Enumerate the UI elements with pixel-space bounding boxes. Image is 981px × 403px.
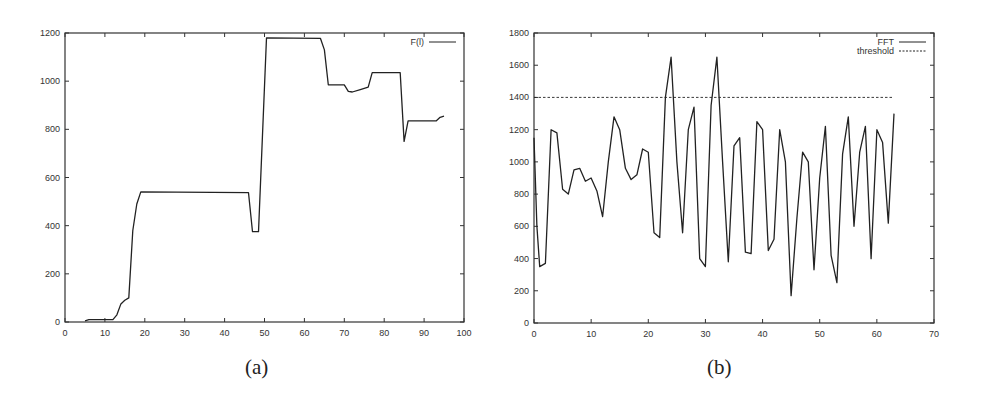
y-tick-label: 1000 [509,157,529,167]
caption-b: (b) [707,355,732,380]
plot-frame [534,33,934,323]
x-tick-label: 100 [456,328,471,338]
x-tick-label: 0 [531,329,536,339]
x-tick-label: 20 [643,329,653,339]
x-tick-label: 70 [339,328,349,338]
x-tick-label: 0 [62,328,67,338]
y-tick-label: 0 [55,317,60,327]
chart-b: 0102030405060700200400600800100012001400… [490,0,981,345]
x-tick-label: 70 [929,329,939,339]
caption-a: (a) [245,355,268,380]
y-tick-label: 200 [45,269,60,279]
x-tick-label: 50 [259,328,269,338]
y-tick-label: 600 [45,173,60,183]
y-tick-label: 400 [514,254,529,264]
y-tick-label: 400 [45,221,60,231]
y-tick-label: 1400 [509,92,529,102]
y-tick-label: 1800 [509,28,529,38]
y-tick-label: 800 [45,124,60,134]
x-tick-label: 60 [299,328,309,338]
y-tick-label: 0 [524,318,529,328]
x-tick-label: 90 [419,328,429,338]
y-tick-label: 1600 [509,60,529,70]
chart-a: 0102030405060708090100020040060080010001… [0,0,490,345]
x-tick-label: 60 [872,329,882,339]
x-tick-label: 40 [758,329,768,339]
series-f-l--line [85,38,444,321]
y-tick-label: 800 [514,189,529,199]
x-tick-label: 30 [180,328,190,338]
x-tick-label: 20 [140,328,150,338]
x-tick-label: 10 [100,328,110,338]
x-tick-label: 10 [586,329,596,339]
chart-b-plot: 0102030405060700200400600800100012001400… [490,0,981,345]
x-tick-label: 80 [379,328,389,338]
series-fft-line [534,57,894,295]
chart-a-plot: 0102030405060708090100020040060080010001… [0,0,490,345]
y-tick-label: 200 [514,286,529,296]
x-tick-label: 40 [220,328,230,338]
y-tick-label: 1200 [509,125,529,135]
y-tick-label: 1200 [40,28,60,38]
y-tick-label: 1000 [40,76,60,86]
legend-label: threshold [857,46,894,56]
x-tick-label: 30 [700,329,710,339]
legend-label: F(l) [411,37,425,47]
x-tick-label: 50 [815,329,825,339]
y-tick-label: 600 [514,221,529,231]
